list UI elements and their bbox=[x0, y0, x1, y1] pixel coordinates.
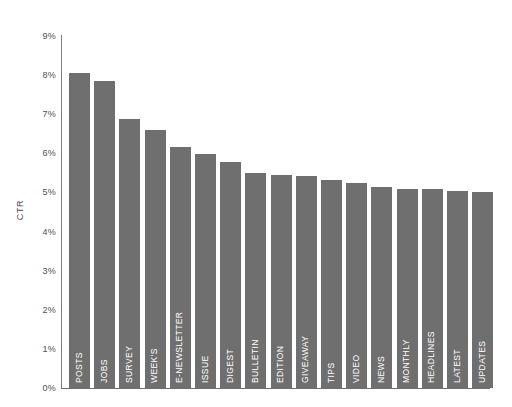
y-axis-tick: 5% bbox=[2, 187, 56, 197]
bar-rect[interactable] bbox=[245, 173, 266, 388]
bar-item[interactable]: TIPS bbox=[321, 180, 342, 388]
bar-rect[interactable] bbox=[447, 191, 468, 389]
y-axis-tick: 2% bbox=[2, 305, 56, 315]
bar-item[interactable]: WEEK'S bbox=[145, 130, 166, 388]
bar-rect[interactable] bbox=[371, 187, 392, 388]
bar-item[interactable]: SURVEY bbox=[119, 119, 140, 388]
bar-rect[interactable] bbox=[170, 147, 191, 388]
bar-item[interactable]: LATEST bbox=[447, 191, 468, 389]
bar-rect[interactable] bbox=[296, 176, 317, 388]
bar-rect[interactable] bbox=[119, 119, 140, 388]
y-axis-tick: 8% bbox=[2, 70, 56, 80]
bar-item[interactable]: UPDATES bbox=[472, 192, 493, 388]
y-axis-tick: 7% bbox=[2, 109, 56, 119]
bar-series: POSTSJOBSSURVEYWEEK'SE-NEWSLETTERISSUEDI… bbox=[61, 0, 490, 407]
bar-rect[interactable] bbox=[397, 189, 418, 388]
y-axis-tick: 3% bbox=[2, 266, 56, 276]
bar-rect[interactable] bbox=[220, 162, 241, 388]
bar-rect[interactable] bbox=[321, 180, 342, 388]
bar-item[interactable]: E-NEWSLETTER bbox=[170, 147, 191, 388]
bar-rect[interactable] bbox=[422, 189, 443, 388]
bar-rect[interactable] bbox=[195, 154, 216, 388]
bar-item[interactable]: VIDEO bbox=[346, 183, 367, 388]
bar-item[interactable]: GIVEAWAY bbox=[296, 176, 317, 388]
y-axis-tick: 1% bbox=[2, 344, 56, 354]
bar-item[interactable]: ISSUE bbox=[195, 154, 216, 388]
bar-item[interactable]: NEWS bbox=[371, 187, 392, 388]
y-axis-tick: 0% bbox=[2, 383, 56, 393]
bar-rect[interactable] bbox=[271, 175, 292, 388]
y-axis-tick-labels: 9%8%7%6%5%4%3%2%1%0% bbox=[0, 0, 56, 407]
y-axis-tick: 4% bbox=[2, 227, 56, 237]
bar-rect[interactable] bbox=[145, 130, 166, 388]
y-axis-tick: 6% bbox=[2, 148, 56, 158]
bar-item[interactable]: HEADLINES bbox=[422, 189, 443, 388]
bar-item[interactable]: EDITION bbox=[271, 175, 292, 388]
bar-rect[interactable] bbox=[69, 73, 90, 388]
bar-item[interactable]: JOBS bbox=[94, 81, 115, 388]
bar-item[interactable]: POSTS bbox=[69, 73, 90, 388]
bar-rect[interactable] bbox=[94, 81, 115, 388]
bar-item[interactable]: BULLETIN bbox=[245, 173, 266, 388]
bar-item[interactable]: DIGEST bbox=[220, 162, 241, 388]
bar-item[interactable]: MONTHLY bbox=[397, 189, 418, 388]
y-axis-tick: 9% bbox=[2, 31, 56, 41]
bar-rect[interactable] bbox=[346, 183, 367, 388]
ctr-bar-chart: CTR 9%8%7%6%5%4%3%2%1%0% POSTSJOBSSURVEY… bbox=[0, 0, 512, 407]
bar-rect[interactable] bbox=[472, 192, 493, 388]
